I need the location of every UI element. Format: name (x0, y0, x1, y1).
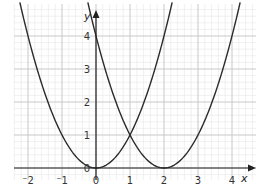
x-tick-label: ⁻2 (22, 175, 34, 186)
minor-grid (14, 4, 256, 180)
y-axis-label: y (83, 10, 91, 23)
origin-label: 0 (84, 163, 90, 174)
x-tick-label: ⁻1 (56, 175, 68, 186)
x-axis-label: x (240, 172, 248, 185)
y-tick-label: 1 (84, 130, 90, 141)
x-tick-label: 3 (195, 175, 201, 186)
x-tick-label: 4 (229, 175, 235, 186)
x-tick-labels: ⁻2⁻101234 (22, 175, 235, 186)
y-tick-label: 2 (84, 97, 90, 108)
x-tick-label: 1 (127, 175, 133, 186)
x-tick-label: 2 (161, 175, 167, 186)
x-axis-arrow-icon (248, 165, 256, 172)
y-axis-arrow-icon (93, 10, 100, 18)
y-tick-label: 4 (84, 31, 90, 42)
y-tick-label: 3 (84, 64, 90, 75)
graph-canvas: x y ⁻2⁻101234 12340 (0, 0, 265, 191)
major-grid (14, 4, 256, 180)
x-tick-label: 0 (93, 175, 99, 186)
